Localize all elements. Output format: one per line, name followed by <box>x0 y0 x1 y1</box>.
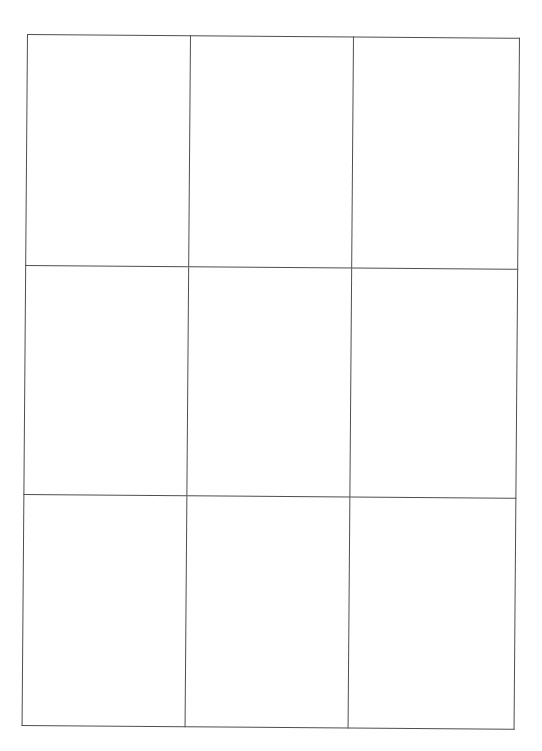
page-root <box>0 0 542 751</box>
grid-cell-r3c1[interactable] <box>22 494 187 726</box>
grid-cell-text-r3c3 <box>349 498 516 729</box>
grid-cell-r2c1[interactable] <box>24 265 189 495</box>
grid-cell-r1c3[interactable] <box>352 37 520 269</box>
grid-cell-r3c2[interactable] <box>185 496 350 728</box>
table-row <box>26 35 520 270</box>
grid-cell-text-r2c3 <box>350 269 517 498</box>
grid-cell-r2c2[interactable] <box>187 267 352 497</box>
grid-cell-r3c3[interactable] <box>348 497 516 729</box>
grid-cell-r1c1[interactable] <box>26 35 191 267</box>
grid-cell-text-r3c2 <box>186 496 350 727</box>
grid-skew-wrapper <box>0 0 542 751</box>
grid-cell-text-r1c3 <box>352 38 519 269</box>
table-row <box>24 265 518 498</box>
grid-cell-r2c3[interactable] <box>350 268 518 498</box>
grid-table-body <box>22 35 519 730</box>
table-row <box>22 494 516 729</box>
grid-cell-text-r2c2 <box>187 267 351 496</box>
grid-cell-text-r2c1 <box>24 266 188 495</box>
grid-cell-text-r1c2 <box>189 36 353 267</box>
grid-table <box>22 34 520 730</box>
grid-cell-r1c2[interactable] <box>189 36 354 268</box>
grid-cell-text-r1c1 <box>26 35 190 266</box>
grid-cell-text-r3c1 <box>23 495 187 726</box>
